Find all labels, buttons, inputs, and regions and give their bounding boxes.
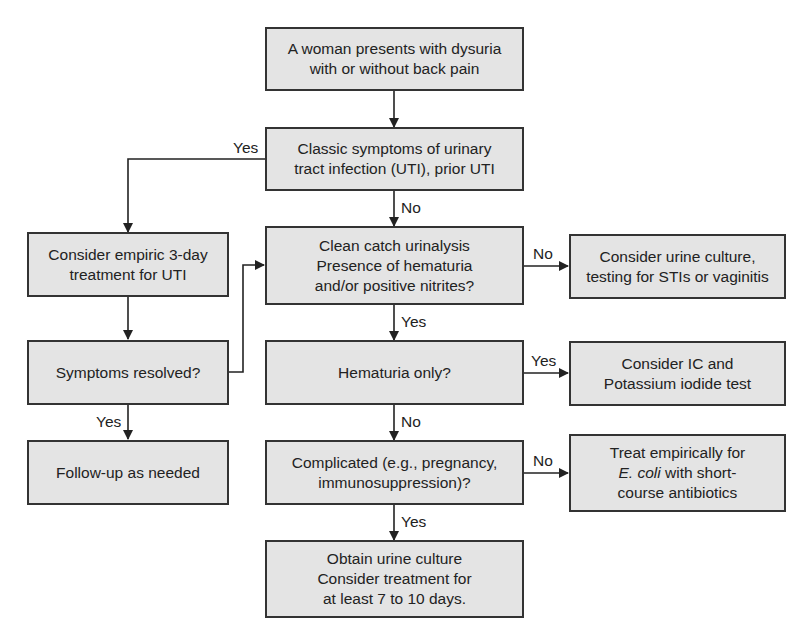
node-classic-symptoms: Classic symptoms of urinarytract infecti… — [265, 127, 524, 191]
node-ic-line1: Consider IC and — [604, 354, 751, 374]
node-urinalysis-line2: Presence of hematuria — [315, 256, 474, 276]
node-treat-line1: Treat empirically for — [610, 443, 746, 463]
edge-label-hematuria-yes: Yes — [531, 352, 556, 370]
node-followup-line1: Follow-up as needed — [56, 463, 200, 483]
edge-label-urinalysis-yes: Yes — [401, 313, 426, 331]
node-culture-sti-line1: Consider urine culture, — [586, 247, 769, 267]
node-urinalysis-line3: and/or positive nitrites? — [315, 276, 474, 296]
node-classic-line1: Classic symptoms of urinary — [294, 139, 495, 159]
node-hematuria-line1: Hematuria only? — [338, 363, 451, 383]
node-start-line1: A woman presents with dysuria — [288, 39, 502, 59]
node-obtain-line1: Obtain urine culture — [317, 549, 471, 569]
edge-label-complicated-yes: Yes — [401, 513, 426, 531]
edge-label-complicated-no: No — [533, 452, 553, 470]
node-complicated: Complicated (e.g., pregnancy,immunosuppr… — [265, 440, 524, 505]
node-treat-ecoli: Treat empirically for E. coli with short… — [569, 434, 786, 512]
node-ic-line2: Potassium iodide test — [604, 374, 751, 394]
node-treat-line3: course antibiotics — [610, 483, 746, 503]
edge-label-classic-yes: Yes — [233, 139, 258, 157]
node-empiric-line2: treatment for UTI — [48, 265, 207, 285]
node-obtain-line3: at least 7 to 10 days. — [317, 589, 471, 609]
node-symptoms-resolved: Symptoms resolved? — [27, 340, 229, 405]
node-treat-line2-rest: with short- — [661, 464, 737, 481]
node-empiric-treatment: Consider empiric 3-daytreatment for UTI — [27, 232, 229, 297]
node-urinalysis: Clean catch urinalysisPresence of hematu… — [265, 226, 524, 305]
ecoli-italic: E. coli — [618, 464, 660, 481]
node-culture-sti-line2: testing for STIs or vaginitis — [586, 267, 769, 287]
node-classic-line2: tract infection (UTI), prior UTI — [294, 159, 495, 179]
node-complicated-line1: Complicated (e.g., pregnancy, — [292, 453, 498, 473]
node-hematuria-only: Hematuria only? — [265, 340, 524, 405]
node-complicated-line2: immunosuppression)? — [292, 473, 498, 493]
node-treat-line2: E. coli with short- — [610, 463, 746, 483]
node-resolved-line1: Symptoms resolved? — [56, 363, 201, 383]
edge-label-hematuria-no: No — [401, 413, 421, 431]
node-start: A woman presents with dysuriawith or wit… — [265, 27, 524, 91]
node-ic-test: Consider IC andPotassium iodide test — [569, 341, 786, 406]
node-obtain-line2: Consider treatment for — [317, 569, 471, 589]
edge-label-urinalysis-no: No — [533, 245, 553, 263]
node-empiric-line1: Consider empiric 3-day — [48, 245, 207, 265]
node-follow-up: Follow-up as needed — [27, 440, 229, 505]
edge-label-resolved-yes: Yes — [96, 413, 121, 431]
node-urine-culture-sti: Consider urine culture,testing for STIs … — [569, 234, 786, 299]
edge-label-classic-no: No — [401, 199, 421, 217]
node-urinalysis-line1: Clean catch urinalysis — [315, 236, 474, 256]
node-obtain-culture: Obtain urine cultureConsider treatment f… — [265, 540, 524, 618]
node-start-line2: with or without back pain — [288, 59, 502, 79]
